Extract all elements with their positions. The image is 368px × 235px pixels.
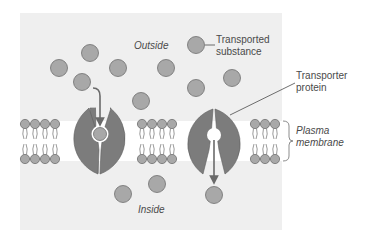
transporter-protein-label-line2: protein: [296, 82, 327, 94]
substance-molecule: [188, 80, 205, 97]
plasma-membrane-label-line2: membrane: [296, 137, 344, 149]
transporter-protein-label-line1: Transporter: [296, 70, 347, 82]
substance-molecule: [51, 60, 68, 77]
transported-substance-label-line1: Transported: [216, 34, 270, 46]
substance-molecule: [74, 74, 91, 91]
inside-label: Inside: [138, 204, 165, 216]
substance-molecule: [115, 186, 132, 203]
facilitated-diffusion-diagram: Outside Inside Transported substance Tra…: [0, 0, 368, 235]
substance-molecule: [149, 176, 166, 193]
plasma-membrane-label-line1: Plasma: [296, 125, 329, 137]
substance-molecule: [110, 60, 127, 77]
transported-substance-label-line2: substance: [216, 46, 262, 58]
substance-molecule: [82, 45, 99, 62]
substance-molecule: [158, 60, 175, 77]
substance-molecule: [133, 93, 150, 110]
outside-label: Outside: [134, 40, 168, 52]
substance-molecule-bound: [94, 128, 107, 141]
membrane-brace: [283, 121, 293, 161]
substance-molecule: [206, 187, 223, 204]
substance-molecule: [224, 70, 241, 87]
substance-molecule: [188, 37, 205, 54]
